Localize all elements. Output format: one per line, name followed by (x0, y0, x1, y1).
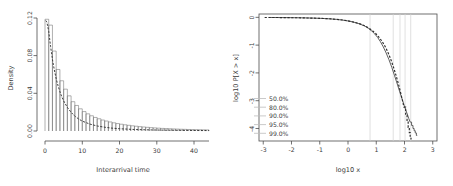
left-y-ticks (34, 18, 38, 131)
figure-canvas: Density 0.00 0.04 0.08 0.12 (0, 0, 453, 186)
histogram-bar (90, 116, 94, 131)
histogram-bar (120, 124, 124, 131)
histogram-bar (56, 69, 60, 131)
ccdf-svg: log10 P[X > x] 0 -1 -2 -3 -4 -3 -2 (226, 0, 453, 186)
histogram-bar (123, 125, 127, 131)
left-y-tick-3: 0.12 (26, 11, 33, 25)
histogram-svg: Density 0.00 0.04 0.08 0.12 (0, 0, 226, 186)
left-y-tick-2: 0.08 (26, 49, 33, 63)
histogram-bar (127, 125, 131, 131)
histogram-fit-curve (46, 21, 209, 131)
left-x-tick-0: 0 (43, 147, 47, 154)
histogram-bar (93, 117, 97, 131)
histogram-bar (112, 123, 116, 131)
histogram-bar (146, 127, 150, 131)
histogram-bar (60, 81, 64, 131)
histogram-bar (149, 128, 153, 131)
legend-label-95: 95.0% (269, 121, 289, 128)
right-y-axis-ticks: 0 -1 -2 -3 -4 (248, 15, 259, 132)
right-y-axis-label: log10 P[X > x] (232, 54, 240, 102)
histogram-bar (108, 122, 112, 131)
right-x-tick-1: -2 (289, 146, 295, 153)
histogram-bar (134, 126, 138, 131)
right-y-tick-3: -3 (248, 98, 255, 104)
histogram-bar (67, 96, 71, 131)
histogram-bar (153, 128, 157, 131)
histogram-panel: Density 0.00 0.04 0.08 0.12 (0, 0, 226, 186)
left-x-tick-1: 10 (78, 147, 86, 154)
right-y-tick-1: -1 (248, 42, 255, 48)
quantile-gridlines (370, 14, 411, 141)
left-x-tick-2: 20 (116, 147, 124, 154)
legend-label-50: 50.0% (269, 95, 289, 102)
histogram-bar (49, 25, 53, 131)
histogram-bar (157, 128, 161, 131)
histogram-bar (71, 102, 75, 131)
legend-label-99: 99.0% (269, 130, 289, 137)
left-x-axis-label: Interarrival time (96, 166, 149, 174)
left-x-tick-4: 40 (190, 147, 198, 154)
histogram-bar (82, 112, 86, 131)
histogram-bar (116, 124, 120, 131)
histogram-bar (97, 119, 101, 131)
legend-label-80: 80.0% (269, 104, 289, 111)
right-x-tick-4: 1 (374, 146, 378, 153)
ccdf-panel: log10 P[X > x] 0 -1 -2 -3 -4 -3 -2 (226, 0, 453, 186)
histogram-bar (105, 121, 109, 131)
ccdf-empirical-curve (269, 17, 417, 135)
left-y-tick-1: 0.04 (26, 86, 33, 100)
left-x-tick-3: 30 (153, 147, 161, 154)
histogram-bar (101, 120, 105, 131)
histogram-bar (138, 127, 142, 131)
right-x-tick-0: -3 (260, 146, 266, 153)
left-y-axis-label: Density (7, 65, 15, 90)
right-x-tick-2: -1 (317, 146, 323, 153)
right-y-tick-2: -2 (248, 70, 255, 76)
right-x-axis-ticks: -3 -2 -1 0 1 2 3 (260, 141, 434, 153)
right-x-axis-label: log10 x (336, 166, 361, 174)
histogram-bar (142, 127, 146, 131)
histogram-bar (131, 126, 135, 131)
legend-label-90: 90.0% (269, 112, 289, 119)
left-x-axis: 0 10 20 30 40 (43, 141, 209, 154)
left-y-axis: 0.00 0.04 0.08 0.12 (26, 11, 37, 138)
histogram-bars (45, 19, 209, 131)
histogram-bar (45, 19, 49, 131)
histogram-bar (64, 89, 68, 131)
left-y-tick-0: 0.00 (26, 124, 33, 138)
left-x-ticks (45, 141, 194, 145)
right-y-tick-4: -4 (248, 126, 255, 132)
right-x-tick-3: 0 (346, 146, 350, 153)
right-y-tick-0: 0 (248, 15, 255, 19)
right-x-tick-6: 3 (431, 146, 435, 153)
right-x-tick-5: 2 (403, 146, 407, 153)
